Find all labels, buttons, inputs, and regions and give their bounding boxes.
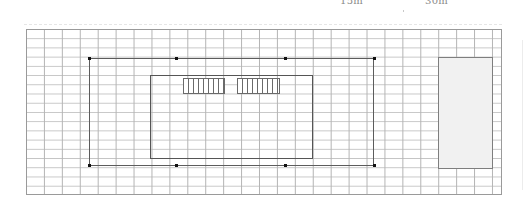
resize-handle-top-2[interactable]: [175, 57, 178, 60]
hatched-block-left[interactable]: [183, 78, 225, 94]
resize-handle-bottom-2[interactable]: [175, 164, 178, 167]
inner-room-frame[interactable]: [150, 75, 313, 159]
scale-tick: [403, 10, 404, 12]
side-panel-rectangle[interactable]: [438, 57, 493, 169]
scale-label-15m: 15m: [340, 0, 363, 7]
ruler-line: [24, 24, 504, 25]
resize-handle-bottom-3[interactable]: [284, 164, 287, 167]
scrollbar-edge[interactable]: [522, 40, 523, 190]
resize-handle-top-3[interactable]: [284, 57, 287, 60]
resize-handle-top-1[interactable]: [88, 57, 91, 60]
resize-handle-bottom-4[interactable]: [373, 164, 376, 167]
scale-label-30m: 30m: [425, 0, 448, 7]
resize-handle-top-4[interactable]: [373, 57, 376, 60]
resize-handle-bottom-1[interactable]: [88, 164, 91, 167]
hatched-block-right[interactable]: [237, 78, 280, 94]
